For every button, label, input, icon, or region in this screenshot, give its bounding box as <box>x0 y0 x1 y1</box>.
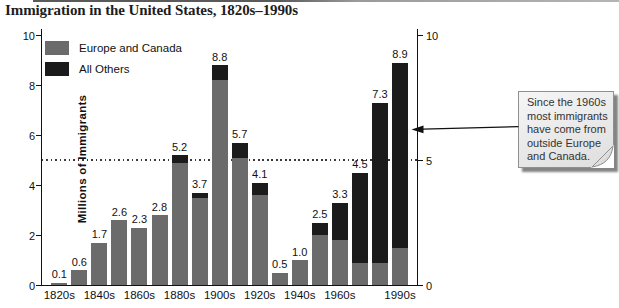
left-tick-mark <box>36 135 41 136</box>
bar-group <box>272 273 288 286</box>
bar-segment-europe-canada <box>372 263 388 286</box>
bar-group <box>152 215 168 285</box>
legend: Europe and Canada All Others <box>45 41 182 83</box>
right-tick-mark <box>418 35 423 36</box>
bar-group <box>212 65 228 285</box>
bar-segment-europe-canada <box>392 248 408 286</box>
legend-swatch-all-others <box>45 62 69 76</box>
bar-group <box>91 243 107 286</box>
immigration-bar-chart-figure: Immigration in the United States, 1820s–… <box>0 0 619 308</box>
x-tick-label: 1990s <box>378 289 422 301</box>
right-tick-label: 0 <box>426 280 451 292</box>
left-y-axis-line <box>41 29 42 286</box>
x-tick-label: 1880s <box>158 289 202 301</box>
bar-segment-all-others <box>312 223 328 236</box>
left-tick-mark <box>36 35 41 36</box>
x-tick-label: 1920s <box>238 289 282 301</box>
annotation-note: Since the 1960s most immigrants have com… <box>518 91 614 168</box>
bar-segment-europe-canada <box>332 240 348 285</box>
x-tick-label: 1900s <box>198 289 242 301</box>
bar-segment-all-others <box>252 183 268 196</box>
right-tick-label: 5 <box>426 155 451 167</box>
bar-segment-all-others <box>392 63 408 248</box>
bar-group <box>292 260 308 285</box>
bar-segment-all-others <box>172 155 188 163</box>
bar-group <box>172 155 188 285</box>
right-tick-mark <box>418 160 423 161</box>
x-axis-line <box>41 285 418 286</box>
left-tick-mark <box>36 85 41 86</box>
x-tick-label: 1960s <box>318 289 362 301</box>
bar-group <box>312 223 328 286</box>
bar-segment-europe-canada <box>71 270 87 285</box>
left-tick-label: 4 <box>10 180 35 192</box>
bar-group <box>192 193 208 286</box>
bar-segment-europe-canada <box>152 215 168 285</box>
bar-segment-europe-canada <box>192 198 208 286</box>
bar-segment-all-others <box>232 143 248 158</box>
legend-label-all-others: All Others <box>79 63 130 75</box>
bar-value-label: 4.1 <box>242 168 278 180</box>
bar-value-label: 8.8 <box>202 51 238 63</box>
bar-segment-europe-canada <box>272 273 288 286</box>
left-tick-label: 0 <box>10 280 35 292</box>
bar-segment-europe-canada <box>212 80 228 285</box>
left-tick-mark <box>36 235 41 236</box>
left-tick-label: 8 <box>10 80 35 92</box>
right-tick-mark <box>418 285 423 286</box>
arrow-line <box>423 127 519 130</box>
bar-group <box>392 63 408 286</box>
bar-value-label: 5.2 <box>162 141 198 153</box>
bar-segment-europe-canada <box>51 283 67 286</box>
right-y-axis-line <box>417 29 418 286</box>
x-tick-label: 1840s <box>77 289 121 301</box>
bar-group <box>232 143 248 286</box>
left-tick-label: 6 <box>10 130 35 142</box>
bar-segment-europe-canada <box>252 195 268 285</box>
left-tick-label: 2 <box>10 230 35 242</box>
bar-segment-europe-canada <box>352 263 368 286</box>
bar-segment-europe-canada <box>91 243 107 286</box>
bar-value-label: 5.7 <box>222 128 258 140</box>
bar-group <box>71 270 87 285</box>
legend-entry-europe-canada: Europe and Canada <box>45 41 182 55</box>
bar-group <box>131 228 147 286</box>
bar-segment-europe-canada <box>312 235 328 285</box>
bar-group <box>352 173 368 286</box>
bar-segment-all-others <box>212 65 228 80</box>
bar-segment-europe-canada <box>111 220 127 285</box>
legend-entry-all-others: All Others <box>45 62 182 76</box>
bar-group <box>51 283 67 286</box>
bar-segment-europe-canada <box>292 260 308 285</box>
bar-group <box>372 103 388 286</box>
left-tick-label: 10 <box>10 30 35 42</box>
bar-segment-all-others <box>352 173 368 263</box>
left-tick-mark <box>36 285 41 286</box>
folded-corner <box>591 145 614 168</box>
bar-segment-all-others <box>332 203 348 241</box>
bar-segment-all-others <box>372 103 388 263</box>
bar-segment-europe-canada <box>131 228 147 286</box>
x-tick-label: 1940s <box>278 289 322 301</box>
left-tick-mark <box>36 185 41 186</box>
legend-swatch-europe-canada <box>45 41 69 55</box>
legend-label-europe-canada: Europe and Canada <box>79 42 182 54</box>
bar-group <box>332 203 348 286</box>
x-tick-label: 1860s <box>117 289 161 301</box>
chart-title: Immigration in the United States, 1820s–… <box>5 2 298 19</box>
bar-value-label: 8.9 <box>382 48 418 60</box>
x-tick-label: 1820s <box>37 289 81 301</box>
right-tick-label: 10 <box>426 30 451 42</box>
bar-group <box>111 220 127 285</box>
